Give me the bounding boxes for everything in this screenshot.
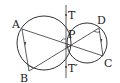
diagram-canvas: A B C D P T T′ <box>0 0 120 83</box>
label-D: D <box>97 14 106 27</box>
point-T-dot <box>65 14 67 16</box>
label-C: C <box>104 57 112 70</box>
label-P: P <box>68 28 76 41</box>
label-B: B <box>20 72 28 83</box>
geometry-diagram: A B C D P T T′ <box>0 0 120 83</box>
segment-AB <box>22 29 29 71</box>
label-A: A <box>11 18 21 31</box>
angle-mark-P-upper-icon <box>61 39 66 41</box>
point-T-prime-dot <box>65 66 67 68</box>
label-T: T <box>68 9 76 22</box>
label-T-prime: T′ <box>68 62 78 75</box>
